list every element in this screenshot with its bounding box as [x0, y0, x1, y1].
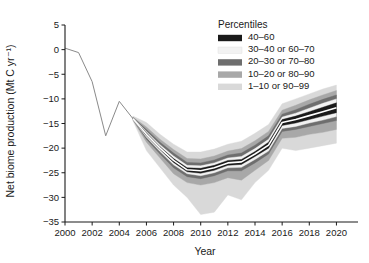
y-tick-label: −25	[43, 167, 59, 178]
x-axis-title: Year	[194, 245, 216, 257]
x-tick-label: 2016	[272, 227, 293, 238]
chart-legend: Percentiles 40–6030–40 or 60–7020–30 or …	[218, 19, 315, 91]
y-tick-label: −5	[48, 69, 59, 80]
legend-swatch	[218, 47, 242, 53]
y-tick-label: −30	[43, 192, 59, 203]
x-tick-label: 2010	[190, 227, 211, 238]
x-tick-label: 2012	[217, 227, 238, 238]
y-tick-label: 0	[54, 44, 59, 55]
x-tick-label: 2006	[136, 227, 157, 238]
x-axis-ticks: 2000200220042006200820102012201420162018…	[54, 222, 347, 238]
x-tick-label: 2020	[326, 227, 347, 238]
y-tick-label: −20	[43, 142, 59, 153]
legend-title: Percentiles	[218, 19, 267, 30]
legend-swatch	[218, 35, 242, 41]
y-tick-label: −35	[43, 216, 59, 227]
x-tick-label: 2002	[82, 227, 103, 238]
legend-swatch	[218, 84, 242, 90]
y-axis-title: Net biome production (Mt C yr⁻¹)	[4, 44, 16, 197]
net-biome-production-chart: 50−5−10−15−20−25−30−35 20002002200420062…	[0, 0, 369, 263]
y-tick-label: 5	[54, 19, 59, 30]
x-tick-label: 2004	[109, 227, 130, 238]
x-tick-label: 2008	[163, 227, 184, 238]
legend-swatch	[218, 71, 242, 77]
legend-label: 40–60	[248, 31, 274, 42]
chart-figure: 50−5−10−15−20−25−30−35 20002002200420062…	[0, 0, 369, 263]
percentile-bands	[133, 85, 337, 215]
y-axis-ticks: 50−5−10−15−20−25−30−35	[43, 19, 65, 227]
y-tick-label: −10	[43, 93, 59, 104]
x-tick-label: 2018	[299, 227, 320, 238]
legend-label: 1–10 or 90–99	[248, 80, 309, 91]
legend-label: 30–40 or 60–70	[248, 43, 315, 54]
legend-swatch	[218, 59, 242, 65]
historical-line	[65, 48, 133, 136]
x-tick-label: 2014	[244, 227, 265, 238]
historical-polyline	[65, 48, 133, 136]
y-tick-label: −15	[43, 118, 59, 129]
legend-items: 40–6030–40 or 60–7020–30 or 70–8010–20 o…	[218, 31, 315, 91]
x-tick-label: 2000	[54, 227, 75, 238]
legend-label: 20–30 or 70–80	[248, 55, 315, 66]
legend-label: 10–20 or 80–90	[248, 68, 315, 79]
